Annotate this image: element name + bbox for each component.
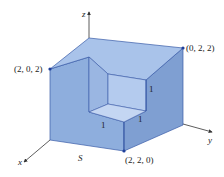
cutout-edge-label-vertical: 1 [149,84,154,94]
vertex-label-2-2-0: (2, 2, 0) [125,155,154,165]
vertex-dot-2-0-2 [48,67,51,70]
vertex-label-0-2-2: (0, 2, 2) [186,43,215,53]
z-axis-label: z [81,9,86,19]
y-axis-label: y [207,135,212,145]
cutout-edge-label-front-right: 1 [138,114,143,124]
vertex-label-2-0-2: (2, 0, 2) [14,64,43,74]
surface-label: S [78,153,83,163]
vertex-dot-2-2-0 [122,149,125,152]
x-axis-label: x [17,157,22,167]
vertex-dot-0-2-2 [181,46,184,49]
y-axis [183,124,212,132]
cube-diagram: z x y (2, 0, 2) (0, 2, 2) (2, 2, 0) S 1 … [0,0,224,177]
cutout-edge-label-front-left: 1 [101,120,106,130]
x-axis [24,140,50,162]
